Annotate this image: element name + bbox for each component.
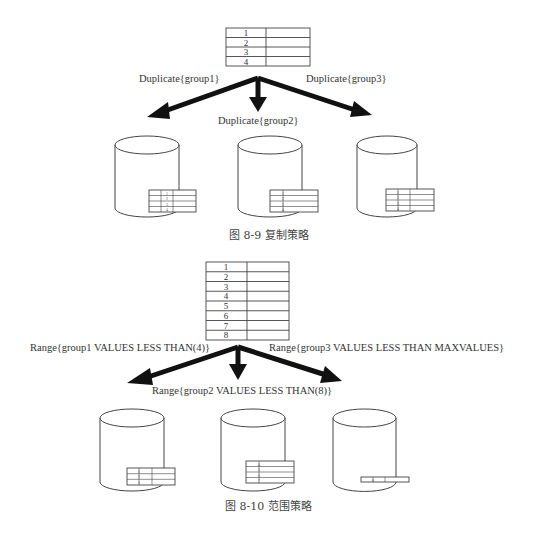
arrow-label-group3: Duplicate{group3} [306,73,387,84]
arrow-label-group2: Range{group2 VALUES LESS THAN(8)} [152,385,332,397]
svg-text:4: 4 [397,206,399,211]
db1-table: 1 2 3 [127,468,175,485]
arrow-center-head [229,364,247,380]
source-table: 1 2 3 4 [226,28,310,67]
db1-table: 1 2 3 4 [149,190,196,212]
source-row-1: 1 [224,262,229,272]
source-row-6: 6 [224,311,229,321]
arrow-left-head [147,102,170,119]
svg-text:7: 7 [258,478,260,483]
svg-text:3: 3 [282,202,284,207]
svg-text:8: 8 [372,478,374,483]
diagram-canvas: 1 2 3 4 Duplicate{group1} Duplicate{grou… [0,0,544,543]
svg-text:4: 4 [166,207,168,212]
arrow-label-group1: Duplicate{group1} [139,73,220,84]
arrow-right-head [320,366,342,383]
source-row-3: 3 [244,47,249,57]
svg-text:3: 3 [166,202,168,207]
database-2: 4 5 6 7 [221,409,294,491]
svg-text:2: 2 [166,196,168,201]
svg-text:1: 1 [166,191,168,196]
source-row-4: 4 [224,291,229,301]
arrow-label-group2: Duplicate{group2} [218,115,299,126]
arrow-left-head [127,368,153,385]
database-2: 1 2 3 4 [238,136,318,217]
db3-table: 1 2 3 4 [386,189,434,211]
arrow-center-head [249,97,267,112]
figure-range-strategy: 1 2 3 4 5 6 7 8 Range{group1 VALUES LESS… [30,262,504,513]
db3-table: 8 [361,477,409,483]
svg-text:2: 2 [282,196,284,201]
source-row-1: 1 [244,28,249,38]
caption-figure-8-10: 图 8-10 范围策略 [225,499,312,513]
figure-duplicate-strategy: 1 2 3 4 Duplicate{group1} Duplicate{grou… [115,28,434,242]
svg-text:3: 3 [138,480,140,485]
arrows [147,78,372,119]
svg-text:1: 1 [138,469,140,474]
source-row-2: 2 [244,38,249,48]
db2-table: 4 5 6 7 [246,461,294,483]
svg-text:6: 6 [258,473,260,478]
database-3: 1 2 3 4 [357,136,434,217]
arrow-label-group3: Range{group3 VALUES LESS THAN MAXVALUES} [269,342,504,353]
database-1: 1 2 3 [100,409,175,491]
svg-text:5: 5 [258,467,260,472]
source-row-7: 7 [224,321,229,331]
svg-text:4: 4 [282,207,284,212]
svg-text:3: 3 [397,201,399,206]
db2-table: 1 2 3 4 [270,190,318,212]
arrow-label-group1: Range{group1 VALUES LESS THAN(4)} [30,342,210,354]
svg-text:1: 1 [282,191,284,196]
source-row-4: 4 [244,57,249,67]
source-row-8: 8 [224,330,229,340]
source-row-5: 5 [224,301,229,311]
svg-text:1: 1 [397,190,399,195]
source-row-2: 2 [224,272,229,282]
arrow-right-head [350,101,372,117]
svg-text:4: 4 [258,462,260,467]
caption-figure-8-9: 图 8-9 复制策略 [229,228,309,242]
svg-text:2: 2 [138,474,140,479]
source-table: 1 2 3 4 5 6 7 8 [206,262,289,340]
database-1: 1 2 3 4 [115,136,196,217]
source-row-3: 3 [224,282,229,292]
database-3: 8 [333,409,409,491]
svg-text:2: 2 [397,195,399,200]
